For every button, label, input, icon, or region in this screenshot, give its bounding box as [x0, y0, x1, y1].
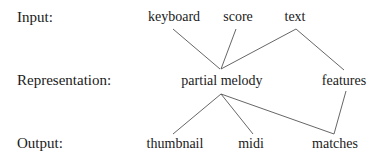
node-thumbnail: thumbnail [147, 136, 204, 152]
node-midi: midi [238, 136, 264, 152]
edge-score-partial-melody [221, 29, 236, 69]
edge-text-features [296, 29, 344, 70]
node-keyboard: keyboard [148, 9, 200, 25]
node-score: score [223, 9, 253, 25]
edge-text-partial-melody [221, 29, 296, 69]
edge-keyboard-partial-melody [173, 29, 220, 69]
node-features: features [322, 73, 366, 89]
edge-partial-melody-thumbnail [173, 94, 221, 134]
node-text: text [285, 9, 306, 25]
node-partial-melody: partial melody [181, 73, 262, 89]
edge-partial-melody-matches [221, 94, 334, 134]
node-matches: matches [312, 136, 358, 152]
edge-features-matches [334, 91, 346, 134]
